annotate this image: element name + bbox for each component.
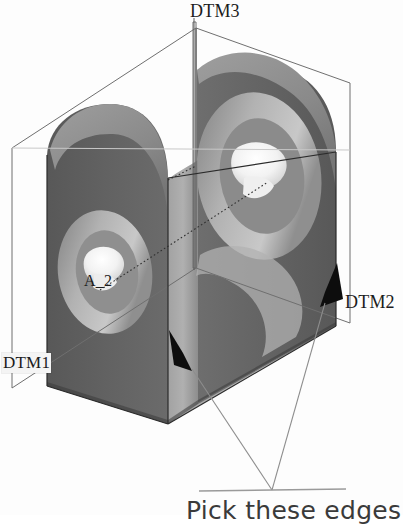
datum-label-dtm2[interactable]: DTM2 bbox=[345, 292, 395, 313]
axis-label-a2[interactable]: A_2 bbox=[84, 272, 112, 290]
datum-label-dtm1[interactable]: DTM1 bbox=[2, 353, 51, 373]
datum-label-dtm3[interactable]: DTM3 bbox=[190, 1, 240, 22]
solid-body bbox=[47, 53, 336, 424]
caption-underline bbox=[199, 489, 346, 491]
annotation-caption: Pick these edges bbox=[186, 496, 401, 525]
